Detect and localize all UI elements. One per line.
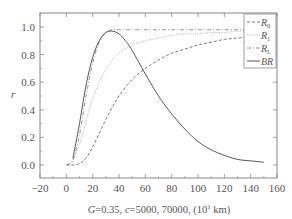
x-tick-label: −20 [31, 182, 49, 194]
series-layer [66, 30, 263, 166]
y-tick-label: 0.6 [21, 76, 35, 88]
x-tick-label: 100 [190, 182, 207, 194]
x-axis-title-part2: =5000, 70000, (10 [130, 204, 208, 216]
x-tick-label: 40 [114, 182, 126, 194]
y-tick-label: 0.0 [21, 159, 35, 171]
y-axis-title: r [11, 89, 16, 100]
x-tick-label: 120 [216, 182, 233, 194]
y-tick-label: 0.4 [21, 104, 35, 116]
x-tick-label: 60 [140, 182, 152, 194]
x-tick-label: 140 [242, 182, 259, 194]
x-tick-label: 0 [64, 182, 70, 194]
series-line-r0 [66, 35, 263, 165]
series-line-br [73, 31, 264, 162]
x-axis-title-part3: km) [211, 204, 231, 216]
line-chart: −20020406080100120140160 0.00.20.40.60.8… [0, 0, 292, 219]
legend-label-br: BR [261, 56, 273, 67]
y-tick-label: 0.8 [21, 49, 35, 61]
y-axis-ticks: 0.00.20.40.60.81.0 [21, 13, 277, 171]
x-tick-label: 160 [269, 182, 286, 194]
x-tick-label: 80 [166, 182, 178, 194]
x-axis-title-part1: =0.35, [95, 204, 125, 215]
y-tick-label: 0.2 [21, 131, 35, 143]
x-tick-label: 20 [87, 182, 99, 194]
legend: R0R1RLBR [244, 14, 276, 68]
series-line-r1 [69, 31, 264, 165]
y-tick-label: 1.0 [21, 21, 35, 33]
x-axis-title: G=0.35, c=5000, 70000, (101 km) [88, 203, 231, 216]
series-line-rl [66, 30, 263, 165]
